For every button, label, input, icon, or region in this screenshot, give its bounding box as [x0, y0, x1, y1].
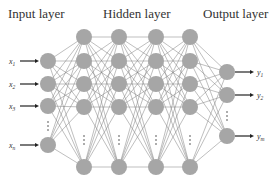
hidden-node-l1-1: [76, 29, 92, 45]
arrow-head-icon: [250, 93, 254, 97]
arrow-head-icon: [35, 82, 39, 86]
ellipsis-dot: [83, 135, 85, 137]
output-label-y1: y1: [256, 68, 264, 78]
hidden-node-l4-3: [182, 76, 198, 92]
hidden-node-l3-5: [148, 159, 164, 175]
hidden-node-l1-3: [76, 76, 92, 92]
hidden-node-l4-5: [182, 159, 198, 175]
ellipsis-dot: [226, 111, 228, 113]
arrow-head-icon: [35, 59, 39, 63]
input-node-x3: [40, 98, 56, 114]
input-label-x1: x1: [8, 57, 16, 67]
ellipsis-dot: [47, 121, 49, 123]
hidden-node-l3-2: [148, 53, 164, 69]
ellipsis-dot: [47, 129, 49, 131]
arrow-head-icon: [35, 104, 39, 108]
hidden-node-l3-1: [148, 29, 164, 45]
input-node-x2: [40, 76, 56, 92]
ellipsis-dot: [155, 135, 157, 137]
connections: [48, 37, 227, 167]
hidden-node-l2-4: [111, 99, 127, 115]
ellipsis-dot: [118, 135, 120, 137]
ellipsis-dot: [47, 125, 49, 127]
hidden-node-l4-2: [182, 53, 198, 69]
ellipsis-dot: [155, 139, 157, 141]
ellipsis-dot: [189, 139, 191, 141]
output-label-ym: ym: [256, 132, 265, 142]
hidden-node-l4-1: [182, 29, 198, 45]
ellipsis-dot: [118, 143, 120, 145]
ellipsis-dot: [189, 143, 191, 145]
arrow-head-icon: [250, 70, 254, 74]
neural-network-diagram: x1x2x3xny1y2ym: [0, 0, 273, 181]
ellipsis-dot: [189, 135, 191, 137]
hidden-node-l3-3: [148, 76, 164, 92]
output-node-y1: [219, 64, 235, 80]
input-node-x1: [40, 53, 56, 69]
hidden-node-l1-5: [76, 159, 92, 175]
hidden-node-l2-5: [111, 159, 127, 175]
hidden-node-l2-2: [111, 53, 127, 69]
hidden-node-l2-3: [111, 76, 127, 92]
hidden-node-l1-2: [76, 53, 92, 69]
ellipsis-dot: [118, 139, 120, 141]
output-node-ym: [219, 128, 235, 144]
ellipsis-dot: [83, 143, 85, 145]
arrow-head-icon: [35, 143, 39, 147]
hidden-node-l2-1: [111, 29, 127, 45]
hidden-node-l1-4: [76, 99, 92, 115]
output-node-y2: [219, 87, 235, 103]
output-label-y2: y2: [256, 91, 264, 101]
arrow-head-icon: [250, 134, 254, 138]
hidden-node-l3-4: [148, 99, 164, 115]
ellipsis-dot: [226, 115, 228, 117]
input-node-xn: [40, 137, 56, 153]
input-label-x3: x3: [8, 102, 16, 112]
input-label-x2: x2: [8, 80, 16, 90]
ellipsis-dot: [155, 143, 157, 145]
ellipsis-dot: [226, 119, 228, 121]
input-label-xn: xn: [8, 141, 16, 151]
hidden-node-l4-4: [182, 99, 198, 115]
ellipsis-dot: [83, 139, 85, 141]
